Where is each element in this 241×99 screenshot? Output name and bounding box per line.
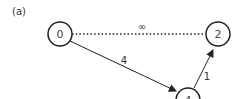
node-2: 2	[206, 22, 230, 46]
edge-0-4	[70, 41, 176, 91]
node-0: 0	[48, 22, 72, 46]
node-2-label: 2	[215, 28, 222, 41]
node-0-label: 0	[57, 28, 64, 41]
edge-0-4-weight: 4	[121, 55, 127, 66]
node-4: 4	[176, 88, 200, 99]
edge-4-2	[194, 50, 213, 88]
edge-0-2-weight: ∞	[138, 21, 146, 32]
node-4-label: 4	[185, 94, 192, 99]
graph-diagram: ∞ 4 1 0 2 4	[0, 0, 241, 99]
edge-4-2-weight: 1	[204, 71, 210, 82]
